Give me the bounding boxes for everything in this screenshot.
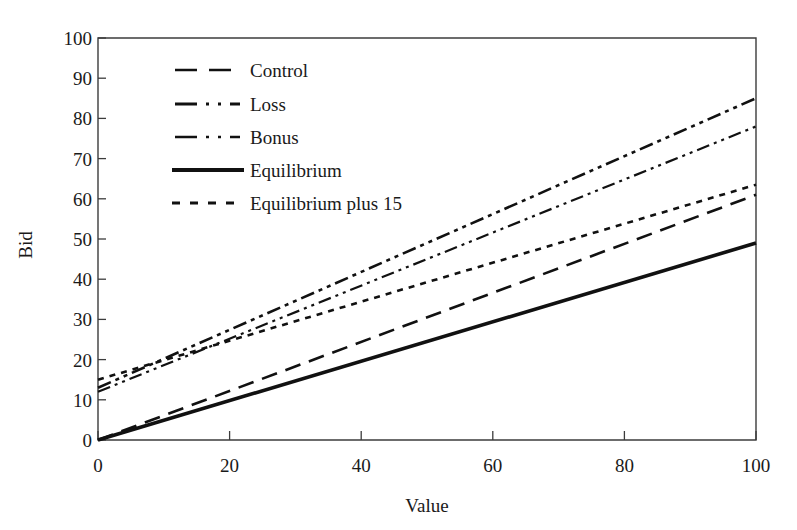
legend-label-bonus: Bonus — [250, 127, 299, 148]
legend-label-equilibrium: Equilibrium — [250, 160, 342, 181]
y-tick-label-10: 10 — [73, 390, 92, 411]
line-chart: 100 90 80 70 60 50 40 30 20 10 0 0 20 40… — [0, 0, 797, 530]
legend-item-control: Control — [175, 60, 308, 81]
series-group — [98, 98, 756, 440]
series-line-loss — [98, 98, 756, 387]
x-tick-label-100: 100 — [742, 455, 771, 476]
y-tick-label-30: 30 — [73, 309, 92, 330]
chart-figure: 100 90 80 70 60 50 40 30 20 10 0 0 20 40… — [0, 0, 797, 530]
y-tick-label-90: 90 — [73, 68, 92, 89]
x-tick-label-60: 60 — [483, 455, 502, 476]
x-axis-tick-labels: 0 20 40 60 80 100 — [93, 455, 770, 476]
x-tick-label-80: 80 — [615, 455, 634, 476]
x-tick-label-40: 40 — [352, 455, 371, 476]
series-line-equilibrium-plus-15 — [98, 185, 756, 380]
x-axis-title: Value — [405, 495, 448, 516]
y-tick-label-70: 70 — [73, 149, 92, 170]
series-line-bonus — [98, 126, 756, 391]
y-tick-label-50: 50 — [73, 229, 92, 250]
legend-item-loss: Loss — [175, 94, 286, 115]
legend-label-loss: Loss — [250, 94, 286, 115]
y-tick-label-20: 20 — [73, 350, 92, 371]
legend-label-control: Control — [250, 60, 308, 81]
series-line-control — [98, 195, 756, 440]
series-line-equilibrium — [98, 243, 756, 440]
legend-item-equilibrium: Equilibrium — [172, 160, 342, 181]
x-tick-label-0: 0 — [93, 455, 103, 476]
legend-label-equilibrium-plus-15: Equilibrium plus 15 — [250, 193, 402, 214]
y-tick-label-0: 0 — [83, 430, 93, 451]
plot-frame — [98, 38, 756, 440]
y-tick-label-40: 40 — [73, 269, 92, 290]
y-axis-title: Bid — [15, 231, 36, 259]
y-tick-label-60: 60 — [73, 189, 92, 210]
legend-item-equilibrium-plus-15: Equilibrium plus 15 — [172, 193, 402, 214]
y-tick-label-100: 100 — [64, 28, 93, 49]
legend-item-bonus: Bonus — [175, 127, 299, 148]
y-axis-tick-labels: 100 90 80 70 60 50 40 30 20 10 0 — [64, 28, 93, 451]
x-tick-label-20: 20 — [220, 455, 239, 476]
y-tick-label-80: 80 — [73, 108, 92, 129]
x-axis-ticks — [98, 431, 756, 440]
legend: Control Loss Bonus Equilibrium Equilibri… — [172, 60, 402, 214]
frame-rect — [98, 38, 756, 440]
